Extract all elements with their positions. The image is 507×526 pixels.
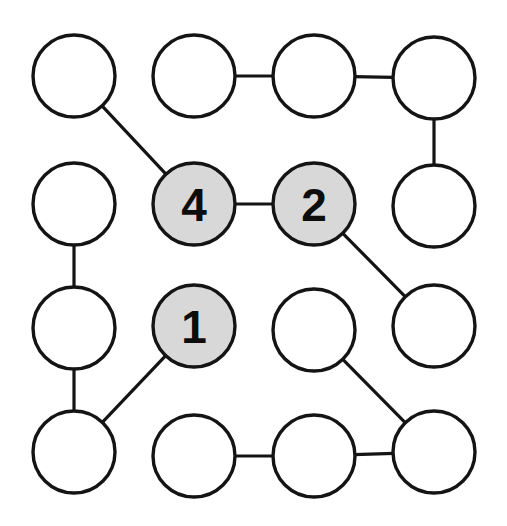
graph-node[interactable] [273,35,355,117]
node-circle[interactable] [33,35,115,117]
graph-edge [354,77,394,78]
node-circle[interactable] [33,411,115,493]
graph-node[interactable] [33,287,115,369]
graph-node[interactable] [33,163,115,245]
node-circle[interactable] [273,35,355,117]
node-circle[interactable] [393,37,475,119]
node-circle[interactable] [153,163,235,245]
graph-node[interactable] [393,285,475,367]
node-circle[interactable] [273,289,355,371]
node-circle[interactable] [273,163,355,245]
node-circle[interactable] [393,165,475,247]
graph-node[interactable] [273,289,355,371]
node-circle[interactable] [33,163,115,245]
node-circle[interactable] [393,411,475,493]
graph-edge [354,453,394,454]
graph-node-highlighted[interactable]: 2 [273,163,355,245]
graph-node[interactable] [393,37,475,119]
node-circle[interactable] [153,35,235,117]
node-circle[interactable] [153,285,235,367]
graph-node[interactable] [393,411,475,493]
graph-diagram: 421 [0,0,507,526]
graph-node[interactable] [33,35,115,117]
node-circle[interactable] [393,285,475,367]
graph-node[interactable] [33,411,115,493]
graph-node-highlighted[interactable]: 1 [153,285,235,367]
graph-node[interactable] [273,415,355,497]
node-circle[interactable] [33,287,115,369]
node-circle[interactable] [273,415,355,497]
node-circle[interactable] [153,415,235,497]
graph-node[interactable] [153,415,235,497]
graph-node[interactable] [153,35,235,117]
graph-node-highlighted[interactable]: 4 [153,163,235,245]
graph-node[interactable] [393,165,475,247]
